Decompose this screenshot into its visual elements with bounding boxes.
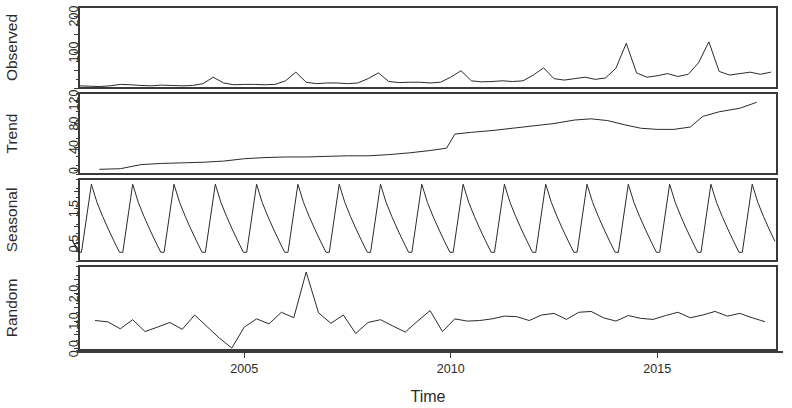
panel-label-observed: Observed xyxy=(3,14,20,81)
ytick-label-random-1.0: 1.0 xyxy=(67,312,81,329)
series-line-trend xyxy=(100,102,757,169)
x-axis-title: Time xyxy=(411,388,446,405)
panel-label-random: Random xyxy=(3,279,20,338)
panel-label-trend: Trend xyxy=(3,114,20,154)
series-line-seasonal xyxy=(73,184,775,252)
series-line-random xyxy=(96,272,765,348)
xtick-label-2005: 2005 xyxy=(230,362,258,376)
series-line-observed xyxy=(79,42,771,87)
panel-label-seasonal: Seasonal xyxy=(3,188,20,253)
plot-canvas: 100200Observed04080120Trend0.51.5Seasona… xyxy=(0,0,792,408)
ytick-label-seasonal-1.5: 1.5 xyxy=(67,200,81,217)
panel-border-trend xyxy=(79,93,777,174)
xtick-label-2010: 2010 xyxy=(437,362,465,376)
decomposition-figure: 100200Observed04080120Trend0.51.5Seasona… xyxy=(0,0,792,408)
ytick-label-random-0.0: 0.0 xyxy=(67,340,81,357)
panel-border-observed xyxy=(79,7,777,88)
ytick-label-trend-0: 0 xyxy=(67,167,81,174)
xtick-label-2015: 2015 xyxy=(643,362,671,376)
panel-border-random xyxy=(79,266,777,350)
ytick-label-trend-80: 80 xyxy=(67,117,81,131)
